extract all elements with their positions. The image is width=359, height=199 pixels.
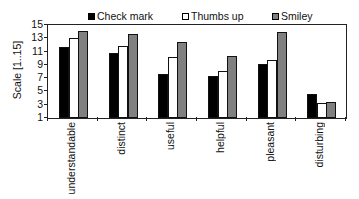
x-tick-label: distinct <box>116 122 127 155</box>
legend-label: Smiley <box>281 10 313 22</box>
x-tick <box>295 117 296 121</box>
legend-item: Thumbs up <box>182 10 244 22</box>
x-tick <box>196 117 197 121</box>
bar <box>317 103 327 118</box>
y-axis-label: Scale [1..15] <box>11 35 23 105</box>
legend-item: Check mark <box>88 10 153 22</box>
bar <box>109 53 119 118</box>
y-tick-label: 11 <box>23 46 43 56</box>
x-tick-label: pleasant <box>265 122 276 162</box>
bar <box>208 76 218 118</box>
legend-label: Check mark <box>97 10 153 22</box>
y-tick-label: 9 <box>23 59 43 69</box>
y-tick-label: 7 <box>23 72 43 82</box>
bar <box>168 57 178 118</box>
x-tick-label: understandable <box>66 122 77 194</box>
bar <box>277 32 287 118</box>
x-tick <box>246 117 247 121</box>
y-tick-label: 1 <box>23 112 43 122</box>
bar <box>118 46 128 118</box>
bar <box>128 34 138 118</box>
legend-label: Thumbs up <box>191 10 244 22</box>
bar <box>59 47 69 118</box>
x-tick-label: useful <box>165 122 176 150</box>
y-tick-label: 13 <box>23 32 43 42</box>
legend-swatch <box>272 13 279 20</box>
x-tick <box>146 117 147 121</box>
y-tick-label: 15 <box>23 19 43 29</box>
legend-swatch <box>88 13 95 20</box>
x-tick <box>97 117 98 121</box>
bar <box>78 31 88 118</box>
bar <box>177 42 187 118</box>
x-tick-label: helpful <box>215 122 226 153</box>
bar <box>258 64 268 118</box>
bar <box>158 74 168 119</box>
legend-item: Smiley <box>272 10 313 22</box>
y-tick-label: 5 <box>23 85 43 95</box>
bar-chart: Check markThumbs upSmiley Scale [1..15] … <box>0 0 359 199</box>
x-tick <box>47 117 48 121</box>
legend: Check markThumbs upSmiley <box>0 10 359 24</box>
bar <box>69 38 79 118</box>
bar <box>227 56 237 118</box>
x-tick-label: disturbing <box>314 122 325 168</box>
y-tick-label: 3 <box>23 99 43 109</box>
bar <box>307 94 317 118</box>
legend-swatch <box>182 13 189 20</box>
bar <box>326 102 336 118</box>
plot-area <box>47 24 347 119</box>
bar <box>267 60 277 118</box>
x-tick <box>345 117 346 121</box>
bar <box>218 71 228 118</box>
